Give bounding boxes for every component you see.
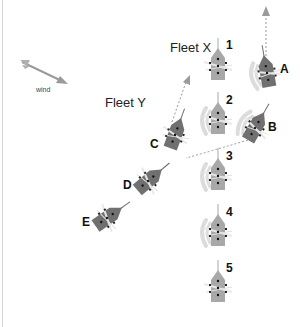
ship-label-3: 3 (226, 149, 233, 163)
naval-battle-diagram: wind Fleet X Fleet Y 12345ABCDE (0, 0, 300, 327)
fleet-x-label: Fleet X (170, 40, 212, 55)
path-c (172, 82, 186, 122)
arrowhead-c-icon (183, 75, 190, 85)
path-b (186, 140, 248, 158)
ship-label-5: 5 (226, 261, 233, 275)
ship-E (88, 190, 138, 237)
arrowhead-a-icon (262, 6, 270, 16)
ship-label-C: C (150, 137, 159, 151)
ship-D (128, 152, 178, 200)
ship-label-4: 4 (226, 205, 233, 219)
fleet-y-label: Fleet Y (105, 95, 146, 110)
ship-label-1: 1 (226, 38, 233, 52)
ship-label-A: A (280, 62, 289, 76)
ship-A (246, 43, 283, 90)
ship-label-E: E (82, 215, 90, 229)
wind-arrow-icon (20, 60, 68, 84)
wind-label: wind (35, 86, 51, 93)
ship-label-D: D (123, 178, 132, 192)
ship-label-2: 2 (226, 93, 233, 107)
ship-label-B: B (268, 120, 277, 134)
ship-C (157, 104, 198, 153)
